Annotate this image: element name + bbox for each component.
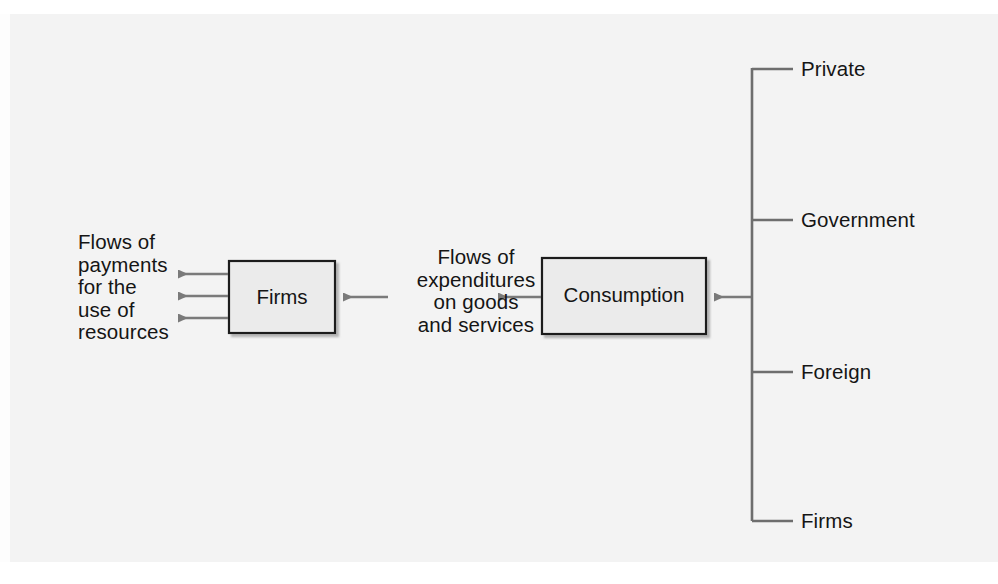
bracket-label-government: Government (801, 209, 915, 232)
bracket-label-foreign: Foreign (801, 361, 871, 384)
firms-box-label: Firms (229, 287, 335, 308)
middle-flow-annotation: Flows of expenditures on goods and servi… (386, 246, 566, 336)
consumption-box-label: Consumption (542, 285, 706, 306)
bracket-label-firms: Firms (801, 510, 853, 533)
bracket-label-private: Private (801, 58, 866, 81)
diagram-canvas: Flows of payments for the use of resourc… (0, 0, 998, 584)
left-flow-annotation: Flows of payments for the use of resourc… (78, 231, 169, 344)
firms-payment-arrows (178, 274, 228, 318)
sources-bracket (752, 68, 793, 521)
